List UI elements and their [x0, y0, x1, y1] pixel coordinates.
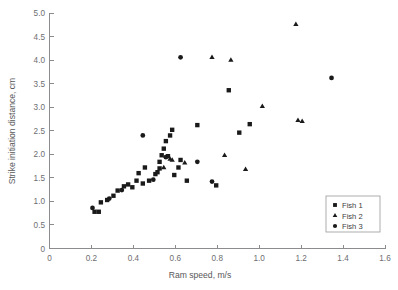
data-point — [159, 153, 163, 157]
data-point — [151, 177, 156, 182]
data-point — [168, 133, 172, 137]
y-axis-ticks: 00.51.01.52.02.53.03.54.04.55.0 — [34, 9, 54, 254]
data-point — [176, 165, 180, 169]
data-point — [182, 160, 187, 165]
data-point — [99, 200, 103, 204]
data-point — [107, 196, 112, 201]
legend-marker-square — [333, 203, 337, 207]
data-point — [300, 119, 305, 124]
legend-label: Fish 1 — [342, 201, 363, 210]
data-point — [155, 170, 159, 174]
x-tick-label: 1.6 — [379, 254, 391, 263]
data-point — [115, 188, 119, 192]
data-point — [162, 146, 166, 150]
data-point — [228, 57, 233, 62]
data-point — [178, 55, 183, 60]
data-point — [260, 103, 265, 108]
data-point — [130, 185, 134, 189]
x-axis-title: Ram speed, m/s — [169, 270, 232, 280]
x-tick-label: 0.4 — [128, 254, 140, 263]
chart-legend: Fish 1Fish 2Fish 3 — [326, 196, 380, 232]
x-tick-label: 0.8 — [212, 254, 224, 263]
legend-marker-circle — [333, 224, 337, 228]
y-tick-label: 1.5 — [34, 174, 46, 183]
data-point — [293, 21, 298, 26]
y-tick-label: 3.5 — [34, 80, 46, 89]
x-tick-label: 1.2 — [295, 254, 307, 263]
legend-label: Fish 2 — [342, 212, 363, 221]
data-point — [164, 155, 169, 160]
data-point — [243, 167, 248, 172]
y-tick-label: 1.0 — [34, 197, 46, 206]
data-point — [140, 133, 145, 138]
data-point — [164, 139, 168, 143]
x-tick-label: 0 — [47, 254, 52, 263]
data-point — [111, 194, 115, 198]
x-tick-label: 0.2 — [86, 254, 98, 263]
data-point — [178, 158, 182, 162]
y-tick-label: 2.0 — [34, 150, 46, 159]
data-point — [141, 181, 145, 185]
y-tick-label: 4.5 — [34, 33, 46, 42]
data-point — [147, 178, 151, 182]
data-point — [157, 166, 161, 170]
series-fish-3 — [90, 55, 334, 210]
data-point — [210, 179, 215, 184]
data-point — [214, 183, 218, 187]
data-point — [126, 182, 130, 186]
data-point — [161, 165, 166, 170]
series-fish-2 — [161, 21, 305, 171]
data-point — [90, 206, 95, 211]
y-tick-label: 5.0 — [34, 9, 46, 18]
data-point — [195, 159, 200, 164]
data-point — [237, 130, 241, 134]
data-point — [143, 165, 147, 169]
y-axis-title: Strike initiation distance, cm — [7, 78, 17, 185]
data-point — [227, 88, 231, 92]
x-tick-label: 0.6 — [170, 254, 182, 263]
data-point — [136, 171, 140, 175]
data-point — [329, 76, 334, 81]
data-point — [195, 123, 199, 127]
y-tick-label: 4.0 — [34, 56, 46, 65]
data-point — [119, 188, 124, 193]
x-tick-label: 1.4 — [337, 254, 349, 263]
data-point — [295, 118, 300, 123]
x-axis-ticks: 00.20.40.60.81.01.21.41.6 — [47, 245, 391, 264]
x-tick-label: 1.0 — [253, 254, 265, 263]
data-point — [97, 210, 101, 214]
data-point — [222, 152, 227, 157]
chart-canvas: 00.51.01.52.02.53.03.54.04.55.0 00.20.40… — [0, 0, 398, 290]
data-point — [157, 160, 161, 164]
data-point — [185, 178, 189, 182]
data-point — [134, 178, 138, 182]
y-tick-label: 2.5 — [34, 127, 46, 136]
data-point — [170, 128, 174, 132]
data-point — [172, 173, 176, 177]
series-fish-1 — [92, 88, 252, 214]
legend-label: Fish 3 — [342, 222, 363, 231]
y-tick-label: 0 — [40, 245, 45, 254]
scatter-chart: 00.51.01.52.02.53.03.54.04.55.0 00.20.40… — [0, 0, 398, 290]
data-points-layer — [90, 21, 334, 213]
data-point — [209, 54, 214, 59]
data-point — [248, 122, 252, 126]
y-tick-label: 3.0 — [34, 103, 46, 112]
y-tick-label: 0.5 — [34, 221, 46, 230]
